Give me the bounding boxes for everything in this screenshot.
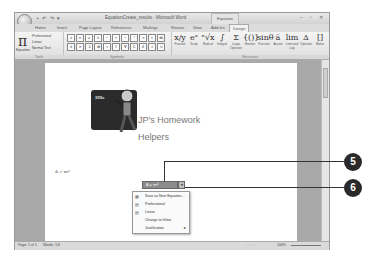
- tab-references[interactable]: References: [111, 25, 131, 30]
- symbol-button[interactable]: ≠: [94, 34, 102, 42]
- window-title: EquationCreate_results - Microsoft Word: [105, 15, 186, 20]
- symbol-button[interactable]: ×: [112, 34, 120, 42]
- status-bar: Page: 1 of 1 Words: 1/4 ▫▫▫▫▫ 100%: [15, 241, 329, 250]
- window-controls[interactable]: – ▫ ✕: [300, 14, 326, 20]
- view-buttons[interactable]: ▫▫▫▫▫: [245, 243, 256, 247]
- title-bar: ▪ ↶ ↷ ▾ EquationCreate_results - Microso…: [15, 13, 329, 24]
- symbol-button[interactable]: ≅: [94, 43, 102, 51]
- symbol-button[interactable]: ∓: [85, 43, 93, 51]
- tab-add-ins[interactable]: Add-Ins: [211, 25, 225, 30]
- structure-label: Radical: [201, 43, 215, 47]
- tab-home[interactable]: Home: [35, 25, 46, 30]
- symbols-gallery[interactable]: ±∞=≠~×÷!∝<≪≤≥∓≅≈≡∀∁∂√∪: [67, 34, 165, 51]
- logo-title-line2: Helpers: [138, 132, 169, 142]
- symbol-button[interactable]: <: [148, 34, 156, 42]
- tab-review[interactable]: Review: [171, 25, 184, 30]
- save-equation-icon: ▦: [135, 194, 140, 199]
- structure-radical-button[interactable]: ⁿ√xRadical: [201, 33, 215, 47]
- structure-operator-button[interactable]: ΔOperator: [299, 33, 313, 47]
- professional-icon: ▤: [135, 202, 140, 207]
- symbol-button[interactable]: ≡: [112, 43, 120, 51]
- equation-options-dropdown[interactable]: ▾: [178, 181, 185, 189]
- structure-large-operator-button[interactable]: ΣLarge Operator: [229, 33, 243, 50]
- symbol-button[interactable]: ∂: [139, 43, 147, 51]
- normal-text-button[interactable]: Normal Text: [32, 46, 51, 50]
- structure-accent-button[interactable]: äAccent: [271, 33, 285, 47]
- quick-access-toolbar[interactable]: ▪ ↶ ↷ ▾: [37, 15, 61, 21]
- structure-bracket-button[interactable]: {()}Bracket: [243, 33, 257, 47]
- structures-group-label: Structures: [171, 55, 329, 59]
- menu-item-change-to-inline[interactable]: Change to Inline: [133, 216, 189, 224]
- menu-item-professional[interactable]: ▤Professional: [133, 200, 189, 208]
- equation-container[interactable]: A = πr²: [142, 181, 178, 189]
- symbol-button[interactable]: ∞: [76, 34, 84, 42]
- symbol-button[interactable]: ∁: [130, 43, 138, 51]
- structure-function-button[interactable]: sinθFunction: [257, 33, 271, 47]
- symbol-button[interactable]: ∀: [121, 43, 129, 51]
- tools-group-label: Tools: [15, 55, 63, 59]
- callout-badge-5: 5: [344, 153, 362, 171]
- symbol-button[interactable]: ≈: [103, 43, 111, 51]
- page-count[interactable]: Page: 1 of 1: [18, 243, 37, 247]
- board-text: 3X5=: [95, 95, 104, 100]
- tab-mailings[interactable]: Mailings: [143, 25, 158, 30]
- structure-label: Accent: [271, 43, 285, 47]
- structure-script-button[interactable]: eˣScript: [187, 33, 201, 47]
- linear-icon: ▤: [135, 210, 140, 215]
- professional-button[interactable]: Professional: [32, 34, 51, 38]
- symbol-button[interactable]: =: [85, 34, 93, 42]
- symbol-button[interactable]: √: [148, 43, 156, 51]
- zoom-level[interactable]: 100%: [277, 243, 286, 247]
- symbol-button[interactable]: ±: [67, 34, 75, 42]
- symbol-button[interactable]: ∪: [157, 43, 165, 51]
- symbol-button[interactable]: ~: [103, 34, 111, 42]
- equation-button-label[interactable]: Equation: [16, 48, 30, 52]
- tab-view[interactable]: View: [193, 25, 202, 30]
- structure-label: Matrix: [313, 43, 327, 47]
- equation-text[interactable]: A = πr²: [55, 169, 70, 174]
- structure-limit-and-log-button[interactable]: limLimit and Log: [285, 33, 299, 50]
- tab-insert[interactable]: Insert: [57, 25, 67, 30]
- symbol-button[interactable]: ≤: [67, 43, 75, 51]
- symbol-button[interactable]: ∝: [139, 34, 147, 42]
- teacher-figure-icon: [113, 88, 141, 136]
- tools-group: π Equation Professional Linear Normal Te…: [15, 32, 64, 59]
- symbols-group: ±∞=≠~×÷!∝<≪≤≥∓≅≈≡∀∁∂√∪ Symbols: [63, 32, 172, 59]
- menu-item-save-as-new-equation[interactable]: ▦Save as New Equation...: [133, 192, 189, 200]
- structure-label: Function: [257, 43, 271, 47]
- structure-fraction-button[interactable]: x/yFraction: [173, 33, 187, 47]
- structure-label: Large Operator: [229, 43, 243, 50]
- callout-5-leader-vertical: [164, 161, 165, 181]
- logo-title-line1: JP's Homework: [138, 115, 200, 125]
- word-count[interactable]: Words: 1/4: [43, 243, 60, 247]
- zoom-slider[interactable]: [291, 245, 321, 246]
- structure-label: Bracket: [243, 43, 257, 47]
- equation-pi-icon[interactable]: π: [18, 33, 27, 49]
- symbol-button[interactable]: ≥: [76, 43, 84, 51]
- callout-badge-6: 6: [344, 179, 362, 197]
- menu-item-linear[interactable]: ▤Linear: [133, 208, 189, 216]
- chalkboard-logo-image: 3X5=: [91, 90, 137, 130]
- callout-6-leader: [185, 187, 345, 188]
- structure-label: Operator: [299, 43, 313, 47]
- structures-group: x/yFractioneˣScriptⁿ√xRadical∫IntegralΣL…: [171, 32, 329, 59]
- structure-matrix-button[interactable]: []Matrix: [313, 33, 327, 47]
- symbol-button[interactable]: ≪: [157, 34, 165, 42]
- vertical-scrollbar[interactable]: [321, 60, 329, 241]
- structure-label: Limit and Log: [285, 43, 299, 50]
- structure-label: Script: [187, 43, 201, 47]
- ribbon-tabs: Home Insert Page Layout References Maili…: [15, 24, 329, 32]
- structure-label: Integral: [215, 43, 229, 47]
- scrollbar-thumb[interactable]: [323, 68, 328, 98]
- symbol-button[interactable]: ÷: [121, 34, 129, 42]
- menu-item-justification[interactable]: Justification▸: [133, 224, 189, 232]
- equation-context-menu: ▦Save as New Equation... ▤Professional ▤…: [132, 191, 190, 234]
- callout-5-leader: [164, 161, 344, 162]
- linear-button[interactable]: Linear: [32, 40, 42, 44]
- ribbon: π Equation Professional Linear Normal Te…: [15, 32, 329, 60]
- symbols-group-label: Symbols: [63, 55, 171, 59]
- structure-label: Fraction: [173, 43, 187, 47]
- structure-integral-button[interactable]: ∫Integral: [215, 33, 229, 47]
- tab-page-layout[interactable]: Page Layout: [79, 25, 101, 30]
- symbol-button[interactable]: !: [130, 34, 138, 42]
